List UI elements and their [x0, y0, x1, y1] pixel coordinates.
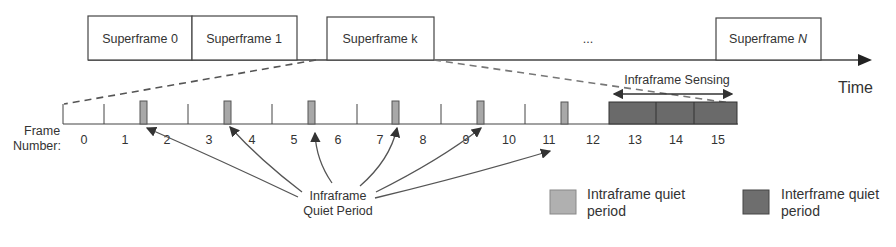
infraframe-sensing-label: Infraframe Sensing — [624, 73, 730, 87]
superframe-0-label: Superframe 0 — [102, 32, 178, 46]
intraframe-quiet-bar — [308, 101, 315, 124]
frame-number: 0 — [81, 133, 88, 147]
superframe-k-label: Superframe k — [342, 32, 418, 46]
frame-number: 6 — [335, 133, 342, 147]
time-label: Time — [838, 79, 873, 96]
intraframe-quiet-bar — [477, 101, 484, 124]
interframe-quiet-block — [609, 102, 737, 124]
frame-number: 7 — [377, 133, 384, 147]
frame-number: 1 — [122, 133, 129, 147]
frame-number: 14 — [669, 133, 683, 147]
frame-number: 12 — [586, 133, 600, 147]
quiet-period-diagram: Time Superframe 0 Superframe 1 Superfram… — [0, 0, 896, 247]
superframe-1-label: Superframe 1 — [206, 32, 282, 46]
frame-number: 10 — [502, 133, 516, 147]
frame-number: 5 — [291, 133, 298, 147]
intraframe-quiet-bar — [224, 101, 231, 124]
legend: Intraframe quiet period Interframe quiet… — [550, 186, 879, 219]
frame-number: 11 — [543, 133, 556, 147]
frame-number-labels: Frame Number: 0 1 2 3 4 5 6 7 8 9 10 11 … — [13, 124, 725, 153]
annotation-line1: Infraframe — [310, 189, 367, 203]
frame-number: 13 — [628, 133, 642, 147]
frame-label-line1: Frame — [24, 124, 60, 138]
superframe-n-label: Superframe N — [729, 32, 808, 46]
frame-number: 15 — [711, 133, 725, 147]
frame-timeline — [63, 101, 738, 124]
infraframe-sensing: Infraframe Sensing — [614, 73, 732, 94]
legend-interframe-line2: period — [781, 203, 820, 219]
frame-number: 3 — [206, 133, 213, 147]
legend-intraframe-line2: period — [587, 203, 626, 219]
intraframe-quiet-bar — [140, 101, 147, 124]
legend-interframe-swatch — [743, 190, 769, 214]
legend-intraframe-line1: Intraframe quiet — [587, 186, 685, 202]
frame-number: 4 — [249, 133, 256, 147]
intraframe-quiet-bar — [392, 101, 399, 124]
frame-label-line2: Number: — [13, 139, 61, 153]
legend-intraframe-swatch — [550, 190, 576, 214]
time-arrow-icon — [858, 54, 872, 66]
frame-number: 9 — [463, 133, 470, 147]
frame-number: 8 — [420, 133, 427, 147]
legend-interframe-line1: Interframe quiet — [781, 186, 879, 202]
annotation-line2: Quiet Period — [303, 204, 373, 218]
ellipsis: ... — [583, 32, 593, 46]
superframe-row: Superframe 0 Superframe 1 Superframe k .… — [88, 16, 821, 60]
intraframe-quiet-bar — [561, 102, 568, 124]
